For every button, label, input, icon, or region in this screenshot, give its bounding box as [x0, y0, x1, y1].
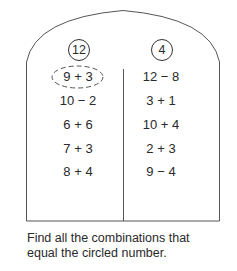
right-expression: 2 + 3 — [131, 141, 191, 157]
right-expression: 3 + 1 — [131, 93, 191, 109]
instruction-line-1: Find all the combinations that — [27, 231, 227, 246]
right-expression: 9 − 4 — [131, 164, 191, 180]
left-expression: 8 + 4 — [48, 164, 108, 180]
left-expression: 9 + 3 — [48, 69, 108, 85]
target-number-left: 12 — [68, 39, 90, 61]
instruction-line-2: equal the circled number. — [27, 246, 227, 261]
left-expression: 6 + 6 — [48, 117, 108, 133]
instruction-text: Find all the combinations that equal the… — [27, 231, 227, 261]
left-expression: 7 + 3 — [48, 141, 108, 157]
right-expression: 10 + 4 — [131, 117, 191, 133]
left-expression: 10 − 2 — [48, 93, 108, 109]
right-expression: 12 − 8 — [131, 69, 191, 85]
target-number-right: 4 — [151, 39, 173, 61]
